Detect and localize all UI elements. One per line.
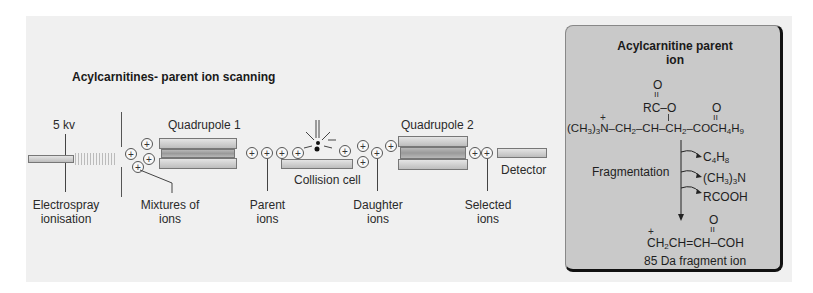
acyl-rc-o: RC–O: [643, 101, 676, 115]
ion: +: [481, 147, 493, 159]
inlet-cone-lower: [121, 167, 122, 197]
product-caption: 85 Da fragment ion: [644, 254, 746, 268]
ion: +: [385, 140, 397, 152]
collision-cell-label: Collision cell: [294, 173, 361, 187]
daughter-leader-line: [377, 159, 378, 191]
ion: +: [276, 147, 288, 159]
ion: +: [357, 140, 369, 152]
panel-title-line2: ion: [614, 53, 736, 67]
acyl-bond: [668, 114, 669, 121]
quadrupole1-rod-top: [159, 138, 237, 149]
acylcarnitine-main-chain: (CH3)3N–CH2–CH–CH2–COCH4H9: [567, 122, 744, 136]
acyl-double-bond: ıı: [654, 89, 659, 99]
quadrupole2-rod-middle: [400, 147, 466, 159]
ion: +: [143, 153, 155, 165]
ion: +: [125, 148, 137, 160]
ion: +: [339, 145, 351, 157]
mixtures-label-line1: Mixtures of: [132, 198, 208, 212]
electrospray-label: Electrospray ionisation: [30, 198, 102, 226]
electrospray-label-line1: Electrospray: [30, 198, 102, 212]
selected-label-line2: ions: [462, 212, 514, 226]
ion: +: [261, 147, 273, 159]
fragmentation-label: Fragmentation: [592, 165, 669, 179]
selected-ions-label: Selected ions: [462, 198, 514, 226]
quadrupole1-rod-bottom: [159, 158, 237, 169]
loss-c4h8: C4H8: [703, 150, 729, 165]
electrospray-leader-line: [65, 134, 66, 192]
detector: [497, 148, 547, 158]
daughter-label-line2: ions: [352, 212, 404, 226]
quadrupole2-rod-bottom: [398, 159, 468, 170]
parent-label-line1: Parent: [245, 198, 290, 212]
panel-title-line1: Acylcarnitine parent: [614, 39, 736, 53]
diagram-title: Acylcarnitines- parent ion scanning: [72, 70, 275, 84]
spray-plume: [75, 153, 117, 165]
voltage-label: 5 kv: [53, 118, 75, 132]
quadrupole1-label: Quadrupole 1: [168, 118, 241, 132]
ion: +: [371, 147, 383, 159]
mixtures-leader-line: [130, 165, 180, 195]
selected-label-line1: Selected: [462, 198, 514, 212]
product-double-bond: ıı: [710, 224, 715, 234]
parent-leader-line: [267, 159, 268, 191]
electrospray-label-line2: ionisation: [30, 212, 102, 226]
ion: +: [469, 147, 481, 159]
ion: +: [246, 147, 258, 159]
ion: +: [357, 156, 369, 168]
panel-title: Acylcarnitine parent ion: [614, 39, 736, 67]
daughter-label-line1: Daughter: [352, 198, 404, 212]
parent-ions-label: Parent ions: [245, 198, 290, 226]
inlet-cone-upper: [121, 112, 122, 147]
mixtures-label: Mixtures of ions: [132, 198, 208, 226]
detector-label: Detector: [501, 163, 546, 177]
ester-double-bond: ıı: [713, 112, 718, 122]
loss-rcooh: RCOOH: [703, 190, 748, 204]
ion: +: [141, 138, 153, 150]
loss-trimethylamine: (CH3)3N: [703, 171, 746, 186]
product-formula: CH2CH=CH–COH: [647, 236, 744, 251]
daughter-ions-label: Daughter ions: [352, 198, 404, 226]
parent-label-line2: ions: [245, 212, 290, 226]
mixtures-label-line2: ions: [132, 212, 208, 226]
electrospray-needle: [28, 155, 74, 163]
quadrupole2-rod-top: [398, 136, 468, 147]
collision-cell: [281, 159, 353, 169]
quadrupole1-rod-middle: [161, 149, 235, 158]
selected-leader-line: [487, 159, 488, 191]
quadrupole2-label: Quadrupole 2: [401, 118, 474, 132]
